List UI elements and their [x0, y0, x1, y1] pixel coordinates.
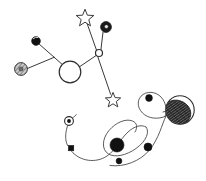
node-upper-right-dark-circle-core: [105, 25, 109, 29]
node-upper-left-dark-dot[interactable]: [32, 37, 41, 46]
hand-drawn-sketch: [0, 0, 206, 181]
node-loop-top-dot[interactable]: [146, 95, 153, 102]
lower-graph-nodes: [65, 95, 195, 164]
node-branch-small-open-circle[interactable]: [96, 50, 103, 57]
node-small-black-dot-bottom[interactable]: [116, 158, 122, 164]
edge-branch-to-upperstar: [87, 24, 96, 51]
node-eye-ring-tail: [72, 115, 76, 119]
node-square[interactable]: [68, 145, 73, 150]
node-hub-open-circle[interactable]: [59, 61, 81, 83]
upper-graph-edges: [28, 24, 111, 94]
edge-branch-to-darkcircle: [101, 32, 103, 50]
edge-elbow-to-hub: [54, 57, 62, 64]
node-mid-black-dot-right[interactable]: [144, 143, 152, 151]
upper-graph-nodes: [15, 9, 121, 107]
sketch-canvas: hand-drawn node-and-link sketch Two hand…: [0, 0, 206, 181]
node-left-hatched-circle-core: [19, 67, 23, 71]
node-eye-ring-centre-dot: [67, 119, 71, 123]
edge-dot-to-elbow: [39, 44, 55, 58]
edge-branch-to-lowerstar: [98, 57, 111, 94]
star-icon-lower[interactable]: [105, 92, 120, 107]
star-icon-upper[interactable]: [76, 9, 94, 26]
path-eye-to-square: [66, 126, 68, 146]
node-big-black-dot[interactable]: [110, 138, 124, 152]
lower-graph-paths: [66, 92, 178, 166]
edge-hub-to-branch: [79, 55, 97, 67]
edge-elbow-to-hatched: [28, 57, 55, 68]
